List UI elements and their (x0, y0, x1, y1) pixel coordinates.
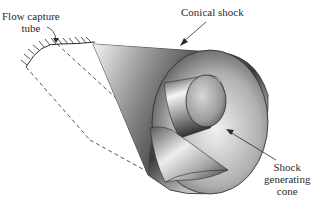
shock-generating-cone-label-line3: cone (264, 185, 310, 197)
flow-capture-tube-label: Flow capture tube (2, 10, 60, 34)
conical-shock-label: Conical shock (181, 6, 244, 18)
flow-capture-tube-label-line1: Flow capture (2, 10, 60, 22)
shock-generating-cone-label-line2: generating (264, 173, 310, 185)
shock-generating-cone-label-line1: Shock (264, 161, 310, 173)
diagram: Flow capture tube Conical shock Shock ge… (0, 0, 325, 200)
flow-capture-tube-label-line2: tube (2, 22, 60, 34)
shock-generating-cone-label: Shock generating cone (264, 161, 310, 197)
